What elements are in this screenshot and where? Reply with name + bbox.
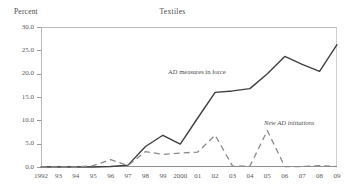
series-line-ad-measures-in-force [41, 45, 337, 167]
annotation-ad-measures-in-force: AD measures in force [168, 68, 226, 75]
chart-figure: Percent Textiles 0.05.010.015.020.025.03… [0, 0, 345, 194]
series-line-new-ad-initiations [41, 131, 337, 167]
series-layer [0, 0, 345, 194]
annotation-new-ad-initiations: New AD initiations [264, 119, 314, 126]
